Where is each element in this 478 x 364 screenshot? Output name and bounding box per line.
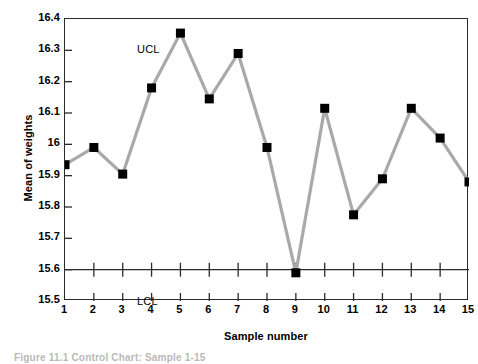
data-point-marker <box>89 143 98 152</box>
x-tick-label: 13 <box>395 303 425 315</box>
ucl-label: UCL <box>137 43 160 55</box>
x-tick-label: 4 <box>136 303 166 315</box>
y-tick-label: 16.3 <box>14 43 60 54</box>
y-tick-label: 16.1 <box>14 106 60 117</box>
data-point-marker <box>407 104 416 113</box>
data-point-marker <box>436 134 445 143</box>
data-point-marker <box>147 83 156 92</box>
x-tick-label: 10 <box>309 303 339 315</box>
x-tick-label: 9 <box>280 303 310 315</box>
y-tick-label: 16 <box>14 137 60 148</box>
y-tick-label: 15.6 <box>14 263 60 274</box>
x-tick-label: 6 <box>193 303 223 315</box>
x-tick-label: 3 <box>107 303 137 315</box>
x-tick-label: 15 <box>453 303 478 315</box>
series-plot <box>65 19 469 301</box>
x-tick-label: 7 <box>222 303 252 315</box>
data-point-marker <box>205 94 214 103</box>
x-tick-label: 1 <box>49 303 79 315</box>
x-tick-label: 14 <box>424 303 454 315</box>
y-tick-label: 16.4 <box>14 12 60 23</box>
x-tick-label: 12 <box>366 303 396 315</box>
data-point-marker <box>465 177 470 186</box>
y-tick-label: 15.8 <box>14 200 60 211</box>
x-tick-label: 11 <box>338 303 368 315</box>
x-tick-label: 2 <box>78 303 108 315</box>
data-point-marker <box>65 160 70 169</box>
figure-caption: Figure 11.1 Control Chart: Sample 1-15 <box>14 352 206 363</box>
x-tick-label: 8 <box>251 303 281 315</box>
data-point-marker <box>349 210 358 219</box>
data-point-marker <box>176 29 185 38</box>
y-tick-label: 15.7 <box>14 231 60 242</box>
data-point-marker <box>378 174 387 183</box>
control-chart-figure: Mean of weights 15.515.615.715.815.91616… <box>0 0 478 364</box>
data-point-marker <box>320 104 329 113</box>
data-point-marker <box>234 49 243 58</box>
y-tick-label: 16.2 <box>14 75 60 86</box>
x-axis-tick-labels: 123456789101112131415 <box>0 303 478 323</box>
data-point-marker <box>263 143 272 152</box>
x-axis-title: Sample number <box>60 330 472 342</box>
y-tick-label: 15.9 <box>14 169 60 180</box>
plot-area: UCL LCL <box>64 18 468 300</box>
series-line <box>65 33 469 273</box>
x-tick-label: 5 <box>164 303 194 315</box>
data-point-marker <box>291 268 300 277</box>
data-point-marker <box>118 170 127 179</box>
